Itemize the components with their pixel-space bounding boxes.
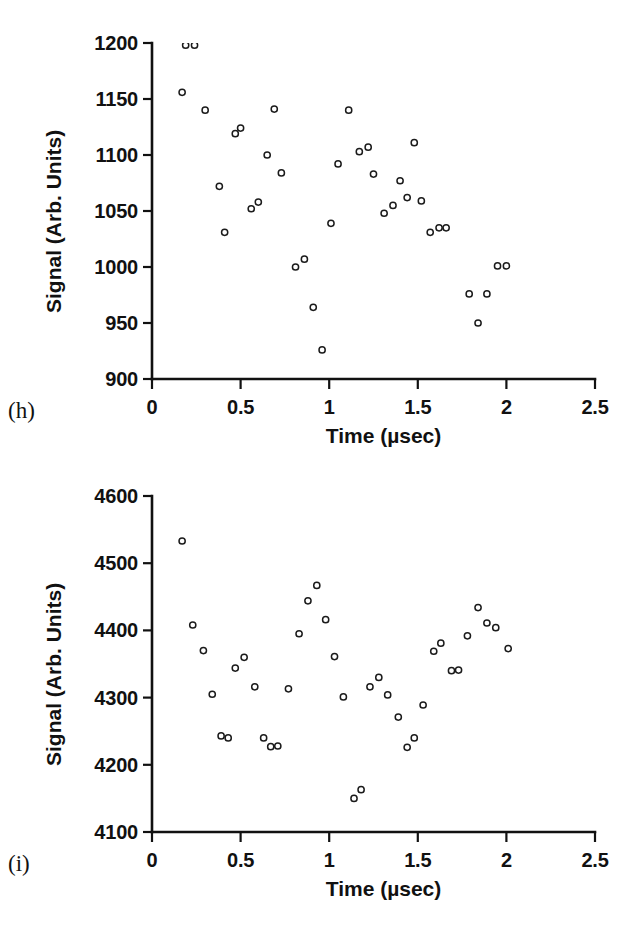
data-point xyxy=(296,631,302,637)
x-tick-label-1: 1 xyxy=(324,849,335,872)
y-tick-label-4200: 4200 xyxy=(94,753,138,776)
data-point xyxy=(448,668,454,674)
data-point xyxy=(475,320,481,326)
data-point xyxy=(351,795,357,801)
data-point xyxy=(190,622,196,628)
data-point xyxy=(358,787,364,793)
data-point xyxy=(367,684,373,690)
data-point xyxy=(493,625,499,631)
data-point xyxy=(261,735,267,741)
data-point xyxy=(232,665,238,671)
x-tick-label-1.5: 1.5 xyxy=(404,396,431,419)
panel-letter-h: (h) xyxy=(8,398,35,424)
data-point xyxy=(420,702,426,708)
data-point xyxy=(222,229,228,235)
x-tick-label-1.5: 1.5 xyxy=(404,849,431,872)
data-point xyxy=(365,144,371,150)
data-point xyxy=(455,667,461,673)
x-tick-label-2: 2 xyxy=(501,849,512,872)
y-axis-title: Signal (Arb. Units) xyxy=(42,583,66,766)
data-point xyxy=(202,107,208,113)
data-point xyxy=(319,347,325,353)
data-point xyxy=(376,674,382,680)
data-point xyxy=(275,743,281,749)
x-tick-label-1: 1 xyxy=(324,396,335,419)
data-point xyxy=(183,42,189,48)
data-point xyxy=(436,225,442,231)
data-point xyxy=(340,694,346,700)
data-points-group xyxy=(179,538,511,802)
x-tick-label-0.5: 0.5 xyxy=(227,396,254,419)
x-tick-label-0.5: 0.5 xyxy=(227,849,254,872)
data-point xyxy=(310,304,316,310)
data-point xyxy=(331,654,337,660)
plot-area-h xyxy=(0,0,634,464)
y-tick-label-4100: 4100 xyxy=(94,821,138,844)
data-point xyxy=(438,640,444,646)
y-tick-label-1050: 1050 xyxy=(94,200,138,223)
x-tick-label-2.5: 2.5 xyxy=(581,849,608,872)
y-tick-label-950: 950 xyxy=(105,312,138,335)
data-point xyxy=(443,225,449,231)
data-point xyxy=(404,194,410,200)
data-point xyxy=(475,604,481,610)
data-point xyxy=(285,686,291,692)
panel-h: 9009501000105011001150120000.511.522.5Ti… xyxy=(0,0,634,464)
data-point xyxy=(191,42,197,48)
data-point xyxy=(216,183,222,189)
data-point xyxy=(292,264,298,270)
data-point xyxy=(356,149,362,155)
data-point xyxy=(427,229,433,235)
data-point xyxy=(255,199,261,205)
data-point xyxy=(404,744,410,750)
figure-scatter-panels: 9009501000105011001150120000.511.522.5Ti… xyxy=(0,0,634,928)
y-tick-label-1200: 1200 xyxy=(94,32,138,55)
data-point xyxy=(397,178,403,184)
data-point xyxy=(200,647,206,653)
y-axis-title: Signal (Arb. Units) xyxy=(42,130,66,313)
data-point xyxy=(464,633,470,639)
y-tick-label-4400: 4400 xyxy=(94,619,138,642)
data-point xyxy=(431,648,437,654)
x-tick-label-0: 0 xyxy=(147,849,158,872)
x-tick-label-2.5: 2.5 xyxy=(581,396,608,419)
data-point xyxy=(225,735,231,741)
data-point xyxy=(466,291,472,297)
x-axis-title: Time (µsec) xyxy=(326,877,442,901)
data-point xyxy=(411,735,417,741)
x-axis-title: Time (µsec) xyxy=(326,424,442,448)
y-tick-label-900: 900 xyxy=(105,368,138,391)
data-point xyxy=(328,220,334,226)
data-point xyxy=(252,684,258,690)
panel-letter-i: (i) xyxy=(8,851,30,877)
data-point xyxy=(218,733,224,739)
data-point xyxy=(335,161,341,167)
y-tick-label-4500: 4500 xyxy=(94,552,138,575)
data-point xyxy=(505,645,511,651)
data-point xyxy=(411,140,417,146)
data-point xyxy=(385,692,391,698)
data-point xyxy=(418,198,424,204)
data-point xyxy=(241,654,247,660)
y-tick-label-4600: 4600 xyxy=(94,485,138,508)
data-point xyxy=(314,582,320,588)
data-point xyxy=(323,617,329,623)
panel-i: 41004200430044004500460000.511.522.5Time… xyxy=(0,464,634,928)
data-point xyxy=(484,291,490,297)
x-tick-label-2: 2 xyxy=(501,396,512,419)
data-point xyxy=(248,206,254,212)
y-tick-label-4300: 4300 xyxy=(94,686,138,709)
data-point xyxy=(494,263,500,269)
data-point xyxy=(381,210,387,216)
data-point xyxy=(268,744,274,750)
data-point xyxy=(264,152,270,158)
y-tick-label-1100: 1100 xyxy=(95,144,138,167)
data-point xyxy=(346,107,352,113)
y-tick-label-1000: 1000 xyxy=(94,256,138,279)
data-point xyxy=(179,89,185,95)
data-point xyxy=(238,125,244,131)
data-point xyxy=(305,598,311,604)
data-point xyxy=(209,691,215,697)
data-point xyxy=(232,131,238,137)
data-point xyxy=(503,263,509,269)
